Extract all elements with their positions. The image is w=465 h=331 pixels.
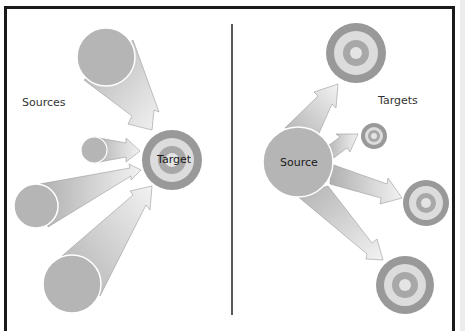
target-bullseye-icon-top: [326, 23, 386, 83]
arrow-source-to-mid-target: [330, 164, 402, 204]
source-circle-bottom: [43, 255, 101, 313]
right-panel: Targets Source: [263, 23, 449, 314]
target-label: Target: [156, 153, 192, 166]
target-bullseye-icon-mid: [403, 180, 449, 226]
source-circle-top: [77, 28, 135, 86]
targets-label: Targets: [377, 94, 418, 107]
source-circle-left: [14, 184, 58, 228]
source-label: Source: [280, 156, 318, 169]
sources-label: Sources: [22, 96, 66, 109]
left-panel: Sources Target: [14, 28, 202, 313]
target-bullseye-icon-bottom: [376, 256, 434, 314]
target-bullseye-icon-small: [361, 123, 387, 149]
sources-targets-diagram: Sources Target: [0, 0, 465, 331]
diagram-canvas: Sources Target: [0, 0, 465, 331]
source-circle-small: [81, 137, 107, 163]
